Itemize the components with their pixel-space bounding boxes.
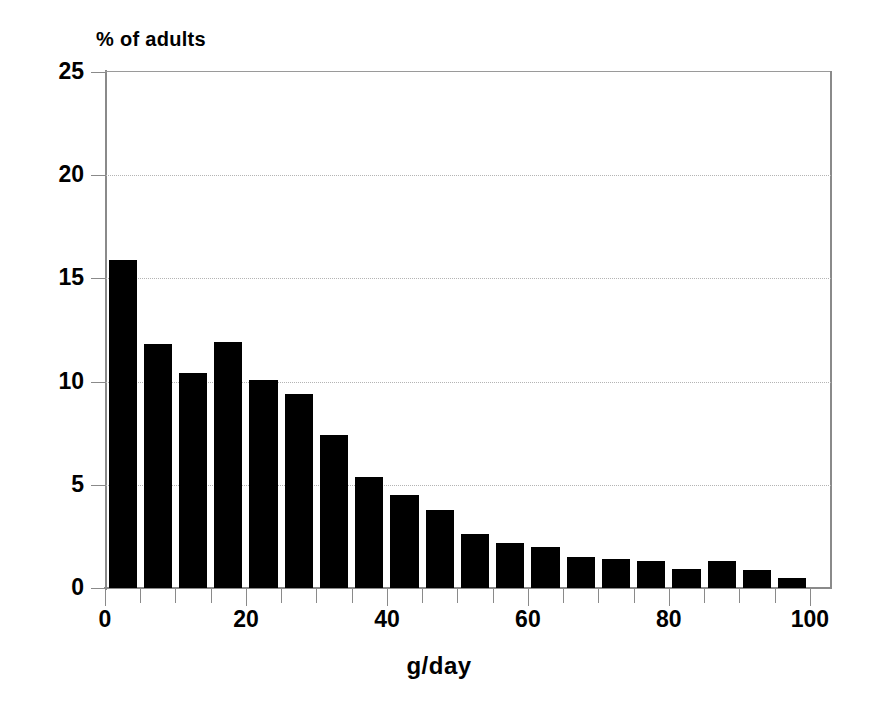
x-axis-tick: [105, 589, 106, 606]
y-axis-tick: [91, 382, 105, 383]
x-axis-tick: [669, 589, 670, 606]
x-axis-tick: [140, 589, 141, 603]
x-axis-tick: [810, 589, 811, 606]
bar: [320, 435, 348, 588]
x-axis-tick: [387, 589, 388, 606]
y-axis-tick: [91, 588, 105, 589]
bar-chart: % of adults 0510152025 020406080100 g/da…: [0, 0, 878, 723]
x-axis-tick: [528, 589, 529, 606]
x-axis-tick: [634, 589, 635, 603]
y-axis-tick: [91, 72, 105, 73]
gridline: [106, 175, 831, 177]
x-axis-tick: [739, 589, 740, 603]
x-axis-tick-label: 80: [624, 608, 714, 631]
x-axis-tick-label: 100: [765, 608, 855, 631]
x-axis-tick: [175, 589, 176, 603]
x-axis-tick: [493, 589, 494, 603]
x-axis-title: g/day: [0, 652, 878, 680]
x-axis-tick: [598, 589, 599, 603]
y-axis-tick-label: 5: [22, 473, 84, 496]
x-axis-tick: [422, 589, 423, 603]
plot-frame-right: [830, 71, 832, 589]
x-axis-tick: [246, 589, 247, 606]
bar: [496, 543, 524, 588]
x-axis-tick-label: 20: [201, 608, 291, 631]
y-axis-line: [105, 70, 107, 590]
bar: [567, 557, 595, 588]
bar: [461, 534, 489, 588]
bar: [426, 510, 454, 588]
x-axis-tick: [563, 589, 564, 603]
bar: [285, 394, 313, 588]
gridline: [106, 278, 831, 280]
bar: [602, 559, 630, 588]
x-axis-tick-label: 60: [483, 608, 573, 631]
y-axis-tick-label: 0: [22, 576, 84, 599]
y-axis-tick-label: 10: [22, 370, 84, 393]
bar: [249, 380, 277, 588]
plot-frame-top: [105, 71, 832, 72]
x-axis-tick-label: 40: [342, 608, 432, 631]
bar: [144, 344, 172, 588]
x-axis-tick: [457, 589, 458, 603]
x-axis-tick: [775, 589, 776, 603]
bar: [672, 569, 700, 588]
y-axis-tick: [91, 175, 105, 176]
bar: [743, 570, 771, 588]
bar: [708, 561, 736, 588]
bar: [531, 547, 559, 588]
bar: [109, 260, 137, 588]
bar: [179, 373, 207, 588]
bar: [214, 342, 242, 588]
x-axis-tick: [211, 589, 212, 603]
x-axis-tick: [316, 589, 317, 603]
y-axis-tick-label: 15: [22, 266, 84, 289]
bar: [355, 477, 383, 588]
x-axis-tick: [281, 589, 282, 603]
bar: [778, 578, 806, 588]
y-axis-tick: [91, 485, 105, 486]
x-axis-tick-label: 0: [60, 608, 150, 631]
bar: [637, 561, 665, 588]
y-axis-tick-label: 25: [22, 60, 84, 83]
y-axis-tick: [91, 278, 105, 279]
x-axis-tick: [704, 589, 705, 603]
y-axis-tick-label: 20: [22, 163, 84, 186]
y-axis-title: % of adults: [96, 28, 206, 51]
x-axis-tick: [352, 589, 353, 603]
bar: [390, 495, 418, 588]
